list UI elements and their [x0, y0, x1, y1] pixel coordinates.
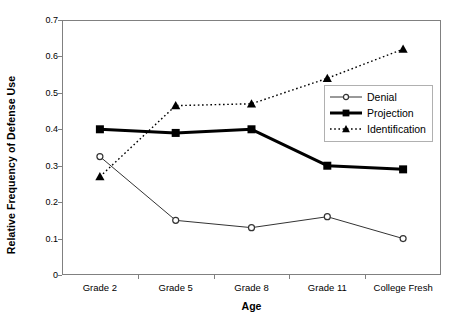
legend-item-identification: Identification [329, 121, 426, 137]
circle-marker-icon [329, 90, 363, 104]
line-chart: Relative Frequency of Defense Use 00.10.… [0, 0, 459, 330]
data-point [324, 214, 330, 220]
data-point [249, 225, 255, 231]
data-point [248, 125, 256, 133]
data-point [323, 74, 332, 82]
y-axis-ticks: 00.10.20.30.40.50.60.7 [28, 20, 58, 275]
legend-label: Denial [367, 91, 397, 103]
data-point [323, 162, 331, 170]
legend-label: Projection [367, 107, 414, 119]
y-tick-label: 0.3 [32, 161, 58, 171]
x-tick-label: Grade 5 [159, 282, 193, 293]
chart-legend: DenialProjectionIdentification [324, 85, 433, 142]
data-point [171, 101, 180, 109]
data-point [399, 165, 407, 173]
legend-item-projection: Projection [329, 105, 426, 121]
x-tick-mark [365, 275, 366, 279]
y-axis-title: Relative Frequency of Defense Use [0, 0, 22, 330]
y-tick-label: 0 [32, 270, 58, 280]
data-point [173, 217, 179, 223]
x-tick-label: Grade 2 [83, 282, 117, 293]
plot-series-layer [62, 20, 441, 275]
x-tick-mark [138, 275, 139, 279]
data-point [172, 129, 180, 137]
x-tick-label: Grade 11 [308, 282, 347, 293]
x-axis-title: Age [62, 300, 441, 312]
y-tick-label: 0.1 [32, 234, 58, 244]
legend-item-denial: Denial [329, 89, 426, 105]
x-tick-label: College Fresh [374, 282, 433, 293]
x-tick-mark [214, 275, 215, 279]
x-tick-label: Grade 8 [234, 282, 268, 293]
data-point [96, 125, 104, 133]
square-marker-icon [329, 106, 363, 120]
y-tick-label: 0.2 [32, 197, 58, 207]
y-tick-label: 0.7 [32, 15, 58, 25]
data-point [399, 45, 408, 53]
data-point [97, 154, 103, 160]
y-tick-label: 0.4 [32, 124, 58, 134]
data-point [400, 236, 406, 242]
x-axis-ticks: Grade 2Grade 5Grade 8Grade 11College Fre… [62, 275, 441, 299]
y-tick-label: 0.5 [32, 88, 58, 98]
x-tick-mark [289, 275, 290, 279]
triangle-marker-icon [329, 122, 363, 136]
y-tick-label: 0.6 [32, 51, 58, 61]
legend-label: Identification [367, 123, 426, 135]
